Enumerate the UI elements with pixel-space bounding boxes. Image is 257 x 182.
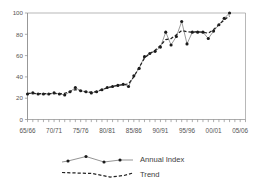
legend-item-annual-index: Annual Index: [62, 155, 185, 164]
data-point-marker: [74, 86, 77, 89]
data-point-marker: [185, 42, 188, 45]
data-point-marker: [207, 37, 210, 40]
legend-sample-marker: [102, 160, 105, 163]
data-point-marker: [143, 55, 146, 58]
legend-sample-marker: [118, 158, 121, 161]
series-annual-index: [26, 11, 231, 96]
legend-label-trend: Trend: [140, 170, 160, 179]
y-tick-label: 60: [16, 52, 23, 59]
y-tick-label: 80: [16, 31, 23, 38]
x-tick-label: 80/81: [99, 127, 115, 134]
y-tick-label: 20: [16, 94, 23, 101]
y-tick-label: 0: [20, 116, 24, 123]
data-point-marker: [180, 20, 183, 23]
y-tick-label: 40: [16, 73, 23, 80]
data-point-marker: [170, 43, 173, 46]
annual-index-trend-chart: 020406080100 65/6670/7175/7680/8185/8690…: [0, 0, 257, 182]
x-tick-label: 65/66: [20, 127, 36, 134]
y-axis: 020406080100: [13, 9, 28, 123]
chart-figure: 020406080100 65/6670/7175/7680/8185/8690…: [0, 0, 257, 182]
x-tick-label: 05/06: [232, 127, 248, 134]
x-tick-label: 95/96: [179, 127, 195, 134]
data-point-marker: [164, 31, 167, 34]
data-point-marker: [228, 11, 231, 14]
legend-item-trend: Trend: [62, 170, 160, 179]
x-tick-label: 00/01: [206, 127, 222, 134]
x-tick-label: 90/91: [152, 127, 168, 134]
x-tick-label: 70/71: [46, 127, 62, 134]
y-tick-label: 100: [13, 9, 24, 16]
legend-sample-marker: [84, 155, 87, 158]
legend-label-annual-index: Annual Index: [140, 155, 185, 164]
x-tick-label: 85/86: [126, 127, 142, 134]
plot-frame: [28, 13, 246, 120]
x-axis: 65/6670/7175/7680/8185/8690/9195/9600/01…: [20, 120, 249, 135]
chart-legend: Annual Index Trend: [62, 155, 185, 179]
data-point-marker: [127, 85, 130, 88]
legend-sample-marker: [66, 159, 69, 162]
series-trend: [28, 16, 230, 94]
x-tick-label: 75/76: [73, 127, 89, 134]
